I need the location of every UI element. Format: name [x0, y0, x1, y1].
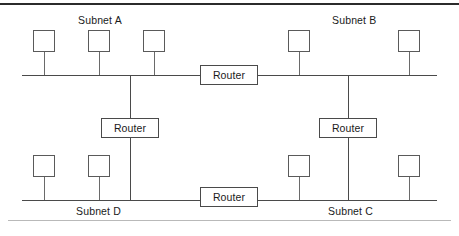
bus-subnet-c [258, 200, 437, 201]
stem-host-d1 [44, 177, 45, 200]
host-node-c2 [398, 155, 420, 177]
host-node-b2 [398, 30, 420, 52]
router-a-b: Router [200, 65, 258, 85]
trunk-left-upper [130, 75, 131, 118]
host-node-a3 [143, 30, 165, 52]
stem-host-d2 [99, 177, 100, 200]
stem-host-a2 [99, 52, 100, 75]
caption-subnet-c: Subnet C [328, 205, 373, 217]
router-a-d: Router [101, 118, 159, 138]
bus-subnet-a [22, 75, 200, 76]
stem-host-b2 [409, 52, 410, 75]
trunk-right-lower [348, 138, 349, 200]
router-a-b-label: Router [213, 69, 245, 81]
router-a-d-label: Router [114, 122, 146, 134]
host-node-a1 [33, 30, 55, 52]
stem-host-a3 [154, 52, 155, 75]
trunk-left-lower [130, 138, 131, 200]
host-node-b1 [288, 30, 310, 52]
bus-subnet-d [22, 200, 200, 201]
router-b-c: Router [319, 118, 377, 138]
host-node-a2 [88, 30, 110, 52]
host-node-c1 [288, 155, 310, 177]
router-d-c-label: Router [213, 191, 245, 203]
stem-host-a1 [44, 52, 45, 75]
bottom-rule [8, 220, 451, 221]
caption-subnet-b: Subnet B [332, 14, 376, 26]
caption-subnet-a: Subnet A [78, 14, 122, 26]
caption-subnet-d: Subnet D [76, 205, 121, 217]
router-b-c-label: Router [332, 122, 364, 134]
trunk-right-upper [348, 75, 349, 118]
host-node-d2 [88, 155, 110, 177]
host-node-d1 [33, 155, 55, 177]
top-rule [0, 3, 459, 5]
network-diagram: Router Router Router Router Subnet A Sub… [0, 0, 459, 236]
stem-host-c2 [409, 177, 410, 200]
stem-host-b1 [299, 52, 300, 75]
router-d-c: Router [200, 187, 258, 207]
stem-host-c1 [299, 177, 300, 200]
